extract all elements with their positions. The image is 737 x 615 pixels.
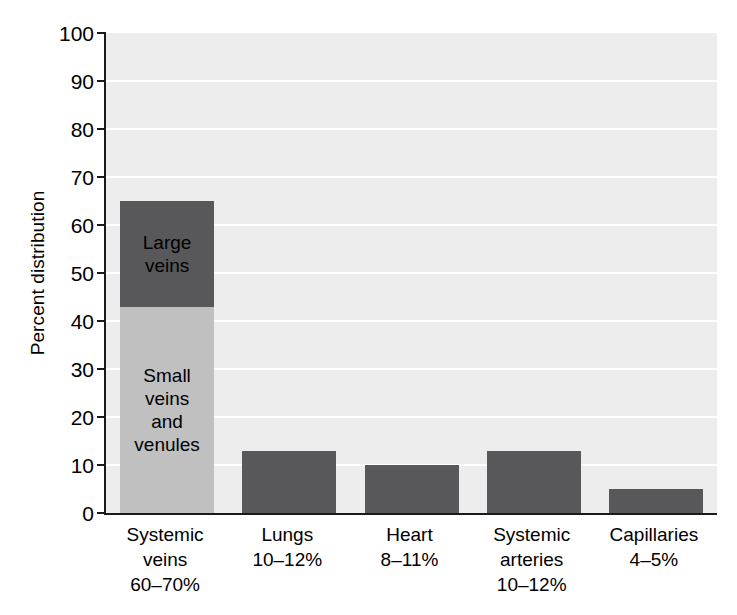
x-axis-label: Systemic arteries 10–12% — [471, 522, 593, 597]
gridline — [106, 80, 717, 82]
bar-segment: Large veins — [120, 201, 214, 307]
gridline — [106, 176, 717, 178]
gridline — [106, 128, 717, 130]
bar-segment-label: Large veins — [120, 231, 214, 277]
y-tick-label: 100 — [59, 23, 94, 44]
y-tick-mark — [97, 32, 106, 34]
bar-segment — [609, 489, 703, 513]
y-tick-mark — [97, 464, 106, 466]
y-tick-label: 0 — [82, 503, 94, 524]
y-tick-label: 30 — [71, 359, 94, 380]
bar — [365, 465, 459, 513]
y-tick-mark — [97, 416, 106, 418]
y-axis-title: Percent distribution — [27, 133, 49, 413]
bar-segment-label: Small veins and venules — [120, 364, 214, 456]
y-tick-mark — [97, 128, 106, 130]
x-axis-label: Lungs 10–12% — [226, 522, 348, 572]
y-tick-mark — [97, 272, 106, 274]
x-axis-label: Heart 8–11% — [348, 522, 470, 572]
y-tick-label: 70 — [71, 167, 94, 188]
bar-segment — [365, 465, 459, 513]
plot-area: 0102030405060708090100 Small veins and v… — [104, 33, 717, 515]
bar — [242, 451, 336, 513]
bar — [609, 489, 703, 513]
bar-segment — [487, 451, 581, 513]
y-tick-label: 10 — [71, 455, 94, 476]
y-tick-label: 20 — [71, 407, 94, 428]
y-tick-mark — [97, 320, 106, 322]
y-tick-mark — [97, 176, 106, 178]
bar: Small veins and venulesLarge veins — [120, 201, 214, 513]
y-tick-label: 90 — [71, 71, 94, 92]
y-tick-mark — [97, 80, 106, 82]
x-axis-label: Systemic veins 60–70% — [104, 522, 226, 597]
y-tick-mark — [97, 224, 106, 226]
bar-segment — [242, 451, 336, 513]
bar-segment: Small veins and venules — [120, 307, 214, 513]
y-tick-label: 80 — [71, 119, 94, 140]
y-tick-label: 60 — [71, 215, 94, 236]
y-tick-mark — [97, 368, 106, 370]
y-tick-label: 50 — [71, 263, 94, 284]
bar-chart: Percent distribution 0102030405060708090… — [0, 0, 737, 615]
x-axis-label: Capillaries 4–5% — [593, 522, 715, 572]
bar — [487, 451, 581, 513]
y-tick-label: 40 — [71, 311, 94, 332]
y-tick-mark — [97, 512, 106, 514]
